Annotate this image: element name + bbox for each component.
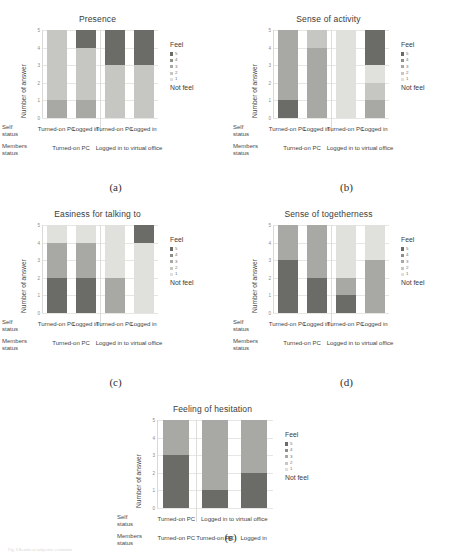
bar-segment-level-1 [336, 30, 356, 118]
bar-segment-level-3 [105, 278, 125, 313]
bar-segment-level-1 [365, 225, 385, 260]
legend-swatch-5 [401, 247, 404, 250]
bar-segment-level-1 [336, 225, 356, 278]
ytick-0: 0 [37, 311, 40, 316]
legend-item-label: 2 [175, 266, 177, 270]
ytick-1: 1 [268, 293, 271, 298]
legend-item-label: 4 [406, 58, 408, 62]
bar-segment-level-2 [47, 30, 67, 100]
group-separator [331, 225, 332, 327]
legend-swatch-3 [170, 260, 173, 263]
legend-item-label: 4 [175, 253, 177, 257]
row-label-self-status: Self status [233, 319, 249, 333]
bar-segment-level-1 [105, 225, 125, 278]
self-status-label: Turned-on PC [96, 126, 133, 132]
legend-swatch-1 [285, 468, 288, 471]
bar-segment-level-2 [76, 48, 96, 101]
legend-item-label: 4 [290, 448, 292, 452]
y-axis-label-b: Number of answer [251, 64, 258, 118]
bar-a-1 [47, 30, 67, 118]
legend-swatch-5 [285, 442, 288, 445]
legend-item-label: 4 [175, 58, 177, 62]
bar-segment-level-5 [105, 30, 125, 65]
legend-swatch-3 [170, 65, 173, 68]
bar-segment-level-1 [76, 225, 96, 243]
y-axis-line [42, 30, 43, 118]
legend-item-label: 2 [290, 461, 292, 465]
row-label-self-status: Self status [233, 124, 249, 138]
bar-segment-level-5 [76, 278, 96, 313]
y-axis-line [273, 225, 274, 313]
bar-e-2 [202, 420, 228, 508]
members-status-label: Turned-on PC [52, 340, 89, 346]
legend-item-label: 3 [290, 455, 292, 459]
bar-segment-level-2 [105, 65, 125, 118]
subfigure-caption-b: (b) [231, 181, 462, 193]
chart-e: Feeling of hesitation012345Number of ans… [115, 398, 346, 553]
legend-item-1: 1 [285, 466, 319, 472]
legend-b: Feel54321Not feel [401, 42, 435, 91]
ytick-2: 2 [37, 80, 40, 85]
subfigure-caption-a: (a) [0, 181, 231, 193]
plot-area-c: 012345 [42, 225, 158, 313]
bar-segment-level-3 [76, 243, 96, 278]
members-status-label: Logged in to virtual office [96, 340, 163, 346]
legend-title: Feel [401, 42, 435, 49]
self-status-label: Logged in [72, 126, 98, 132]
y-axis-line [42, 225, 43, 313]
legend-item-label: 1 [406, 77, 408, 81]
gridline-0 [157, 508, 273, 509]
bar-segment-level-5 [134, 30, 154, 65]
legend-swatch-1 [170, 78, 173, 81]
legend-item-label: 3 [406, 260, 408, 264]
ytick-5: 5 [268, 223, 271, 228]
legend-footer: Not feel [401, 279, 435, 286]
ytick-2: 2 [268, 80, 271, 85]
figure-caption: Fig. 8 Results of subjective evaluation [8, 547, 72, 552]
legend-swatch-4 [285, 449, 288, 452]
ytick-2: 2 [268, 275, 271, 280]
members-status-label: Logged in to virtual office [327, 145, 394, 151]
bar-segment-level-5 [241, 473, 267, 508]
legend-item-label: 5 [175, 247, 177, 251]
legend-footer: Not feel [170, 279, 204, 286]
bar-d-4 [365, 225, 385, 313]
legend-c: Feel54321Not feel [170, 237, 204, 286]
ytick-1: 1 [152, 488, 155, 493]
legend-a: Feel54321Not feel [170, 42, 204, 91]
bar-d-1 [278, 225, 298, 313]
legend-item-label: 3 [175, 65, 177, 69]
ytick-5: 5 [152, 418, 155, 423]
bar-segment-level-3 [365, 260, 385, 313]
self-status-label: Logged in [72, 321, 98, 327]
bar-segment-level-5 [278, 260, 298, 313]
bar-e-3 [241, 420, 267, 508]
legend-swatch-4 [170, 254, 173, 257]
row-label-self-status: Self status [2, 124, 18, 138]
plot-area-e: 012345 [157, 420, 273, 508]
self-status-label: Logged in to virtual office [201, 516, 268, 522]
ytick-4: 4 [37, 45, 40, 50]
self-status-label: Logged in [303, 126, 329, 132]
group-separator [331, 30, 332, 132]
bar-b-4 [365, 30, 385, 118]
legend-swatch-2 [401, 267, 404, 270]
bar-segment-level-5 [365, 30, 385, 65]
ytick-4: 4 [37, 240, 40, 245]
legend-swatch-3 [401, 260, 404, 263]
bar-a-2 [76, 30, 96, 118]
ytick-0: 0 [37, 116, 40, 121]
bar-segment-level-3 [307, 225, 327, 278]
ytick-5: 5 [37, 28, 40, 33]
legend-swatch-3 [401, 65, 404, 68]
ytick-0: 0 [268, 116, 271, 121]
bar-b-1 [278, 30, 298, 118]
row-label-members-status: Members status [233, 338, 258, 352]
bar-segment-level-3 [241, 420, 267, 473]
members-status-label: Turned-on PC [52, 145, 89, 151]
self-status-label: Turned-on PC [269, 321, 306, 327]
bar-b-3 [336, 30, 356, 118]
chart-d: Sense of togetherness012345Number of ans… [231, 203, 462, 398]
chart-title-e: Feeling of hesitation [97, 404, 328, 414]
bar-c-1 [47, 225, 67, 313]
